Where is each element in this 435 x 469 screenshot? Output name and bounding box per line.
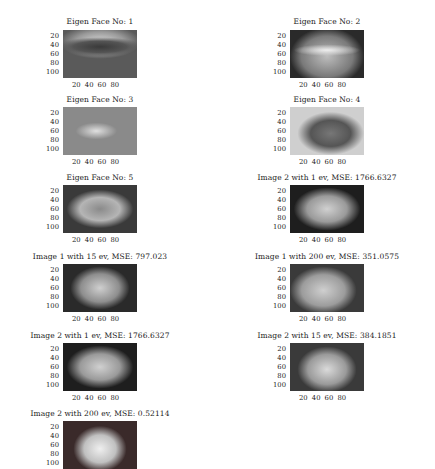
eigenface-image [63, 185, 137, 233]
subplot-title: Eigen Face No: 1 [67, 17, 134, 26]
y-tick-label: 80 [266, 59, 286, 67]
y-tick-label: 80 [39, 372, 59, 380]
x-tick-labels: 20 40 60 80 [299, 236, 346, 244]
y-tick-label: 40 [266, 275, 286, 283]
x-tick-labels: 20 40 60 80 [72, 158, 119, 166]
subplot-title: Image 2 with 1 ev, MSE: 1766.6327 [30, 331, 169, 340]
y-tick-label: 20 [39, 423, 59, 431]
y-tick-label: 20 [39, 32, 59, 40]
x-tick-labels: 20 40 60 80 [72, 236, 119, 244]
y-tick-label: 60 [266, 50, 286, 58]
subplot-title: Eigen Face No: 3 [67, 95, 134, 104]
subplot-title: Eigen Face No: 4 [294, 95, 361, 104]
y-tick-label: 60 [39, 50, 59, 58]
y-tick-label: 60 [266, 284, 286, 292]
subplot-title: Eigen Face No: 5 [67, 173, 134, 182]
x-tick-labels: 20 40 60 80 [72, 394, 119, 402]
y-tick-label: 100 [266, 223, 286, 231]
y-tick-label: 60 [266, 127, 286, 135]
y-tick-label: 80 [266, 214, 286, 222]
y-tick-label: 40 [266, 196, 286, 204]
y-tick-label: 20 [39, 109, 59, 117]
y-tick-label: 80 [266, 136, 286, 144]
y-tick-label: 100 [266, 68, 286, 76]
y-tick-label: 40 [266, 41, 286, 49]
y-tick-label: 60 [39, 363, 59, 371]
y-tick-label: 20 [266, 32, 286, 40]
y-tick-label: 20 [266, 345, 286, 353]
x-tick-labels: 20 40 60 80 [72, 81, 119, 89]
y-tick-label: 20 [39, 266, 59, 274]
eigenface-image [63, 107, 137, 155]
subplot-title: Image 2 with 200 ev, MSE: 0.52114 [30, 409, 169, 418]
y-tick-label: 100 [39, 459, 59, 467]
y-tick-label: 80 [266, 372, 286, 380]
subplot-title: Image 1 with 15 ev, MSE: 797.023 [33, 252, 167, 261]
y-tick-label: 100 [39, 302, 59, 310]
reconstructed-face-image [290, 185, 364, 233]
subplot-title: Eigen Face No: 2 [294, 17, 361, 26]
y-tick-label: 60 [266, 205, 286, 213]
y-tick-label: 80 [39, 59, 59, 67]
y-tick-label: 20 [39, 345, 59, 353]
y-tick-label: 40 [266, 354, 286, 362]
reconstructed-face-image [63, 264, 137, 312]
y-tick-label: 40 [39, 432, 59, 440]
x-tick-labels: 20 40 60 80 [72, 315, 119, 323]
y-tick-label: 100 [266, 381, 286, 389]
x-tick-labels: 20 40 60 80 [299, 158, 346, 166]
y-tick-label: 20 [266, 187, 286, 195]
y-tick-label: 40 [39, 196, 59, 204]
y-tick-label: 40 [39, 354, 59, 362]
y-tick-label: 40 [39, 41, 59, 49]
x-tick-labels: 20 40 60 80 [299, 81, 346, 89]
x-tick-labels: 20 40 60 80 [299, 315, 346, 323]
y-tick-label: 40 [39, 275, 59, 283]
reconstructed-face-image [63, 421, 137, 469]
y-tick-label: 80 [39, 214, 59, 222]
y-tick-label: 100 [39, 223, 59, 231]
y-tick-label: 60 [39, 441, 59, 449]
subplot-title: Image 2 with 15 ev, MSE: 384.1851 [257, 331, 396, 340]
reconstructed-face-image [63, 343, 137, 391]
y-tick-label: 20 [39, 187, 59, 195]
y-tick-label: 60 [266, 363, 286, 371]
y-tick-label: 60 [39, 284, 59, 292]
y-tick-label: 60 [39, 205, 59, 213]
eigenface-image [290, 107, 364, 155]
y-tick-label: 100 [266, 145, 286, 153]
y-tick-label: 60 [39, 127, 59, 135]
subplot-title: Image 1 with 200 ev, MSE: 351.0575 [255, 252, 399, 261]
y-tick-label: 40 [266, 118, 286, 126]
y-tick-label: 100 [39, 145, 59, 153]
y-tick-label: 40 [39, 118, 59, 126]
eigenface-image [290, 30, 364, 78]
reconstructed-face-image [290, 343, 364, 391]
y-tick-label: 100 [39, 381, 59, 389]
y-tick-label: 20 [266, 266, 286, 274]
y-tick-label: 20 [266, 109, 286, 117]
y-tick-label: 80 [39, 450, 59, 458]
x-tick-labels: 20 40 60 80 [299, 394, 346, 402]
eigenface-image [63, 30, 137, 78]
subplot-title: Image 2 with 1 ev, MSE: 1766.6327 [257, 173, 396, 182]
y-tick-label: 100 [266, 302, 286, 310]
y-tick-label: 80 [39, 293, 59, 301]
y-tick-label: 80 [39, 136, 59, 144]
y-tick-label: 80 [266, 293, 286, 301]
y-tick-label: 100 [39, 68, 59, 76]
reconstructed-face-image [290, 264, 364, 312]
